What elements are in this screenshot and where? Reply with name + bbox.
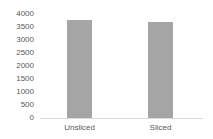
bar-sliced bbox=[148, 22, 173, 118]
bar-chart: 05001000150020002500300035004000 Unslice… bbox=[0, 0, 213, 139]
y-tick-label: 2500 bbox=[0, 49, 34, 57]
y-tick-label: 3500 bbox=[0, 23, 34, 31]
y-tick-label: 2000 bbox=[0, 62, 34, 70]
bar-unsliced bbox=[67, 20, 92, 118]
y-tick-label: 1500 bbox=[0, 75, 34, 83]
x-axis-line bbox=[40, 118, 203, 119]
y-tick-label: 500 bbox=[0, 101, 34, 109]
y-tick-label: 0 bbox=[0, 114, 34, 122]
y-tick-label: 4000 bbox=[0, 10, 34, 18]
x-label-unsliced: Unsliced bbox=[50, 123, 110, 132]
y-tick-label: 3000 bbox=[0, 36, 34, 44]
x-label-sliced: Sliced bbox=[131, 123, 191, 132]
y-tick-label: 1000 bbox=[0, 88, 34, 96]
